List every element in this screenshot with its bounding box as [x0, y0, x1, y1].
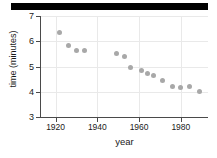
plot-area: [41, 16, 208, 117]
data-point: [57, 30, 62, 35]
gridline-vertical: [181, 16, 182, 117]
data-point: [187, 84, 192, 89]
x-tick-label: 1940: [80, 123, 114, 132]
gridline-horizontal: [41, 67, 208, 68]
data-point: [82, 48, 87, 53]
x-axis-spine: [40, 117, 208, 118]
y-axis-label: time (minutes): [8, 15, 18, 103]
y-tick-mark: [36, 117, 41, 118]
data-point: [122, 54, 127, 59]
data-point: [66, 43, 71, 48]
y-tick-mark: [36, 67, 41, 68]
x-tick-label: 1960: [122, 123, 156, 132]
gridline-vertical: [139, 16, 140, 117]
gridline-horizontal: [41, 16, 208, 17]
y-tick-mark: [36, 41, 41, 42]
scatter-chart-figure: time (minutes) year 34567192019401960198…: [0, 10, 217, 158]
data-point: [145, 71, 150, 76]
data-point: [178, 85, 183, 90]
gridline-horizontal: [41, 92, 208, 93]
y-tick-mark: [36, 92, 41, 93]
data-point: [139, 68, 144, 73]
data-point: [151, 73, 156, 78]
y-tick-label: 5: [29, 63, 34, 72]
gridline-vertical: [97, 16, 98, 117]
y-tick-label: 6: [29, 37, 34, 46]
gridline-horizontal: [41, 41, 208, 42]
data-point: [170, 84, 175, 89]
data-point: [197, 89, 202, 94]
y-tick-label: 3: [29, 113, 34, 122]
data-point: [114, 51, 119, 56]
data-point: [160, 78, 165, 83]
x-tick-label: 1920: [39, 123, 73, 132]
y-tick-label: 4: [29, 88, 34, 97]
y-tick-mark: [36, 16, 41, 17]
y-tick-label: 7: [29, 12, 34, 21]
header-rule: [11, 3, 208, 10]
data-point: [128, 65, 133, 70]
x-tick-label: 1980: [164, 123, 198, 132]
data-point: [74, 48, 79, 53]
x-axis-label: year: [41, 136, 208, 147]
